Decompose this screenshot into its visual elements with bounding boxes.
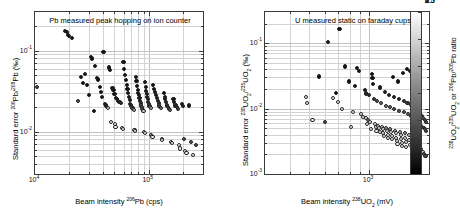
- axis-tick-y: [201, 69, 203, 70]
- data-point: [122, 67, 126, 71]
- data-point: [424, 129, 428, 133]
- axis-tick-y: [201, 139, 203, 140]
- axis-tick-x: [89, 172, 90, 174]
- axis-tick-y: [35, 54, 37, 55]
- axis-tick-x: [309, 172, 310, 174]
- axis-tick-y: [201, 54, 203, 55]
- gridline-horizontal: [35, 26, 203, 27]
- data-point: [189, 140, 193, 144]
- data-point: [187, 103, 191, 107]
- axis-tick-y: [265, 43, 269, 44]
- axis-tick-y: [265, 89, 267, 90]
- axis-tick-x: [290, 12, 291, 14]
- axis-tick-x: [89, 12, 90, 14]
- data-point: [113, 125, 117, 129]
- data-point: [396, 79, 400, 83]
- panel-title-u: U measured static on faraday cups: [295, 16, 411, 25]
- axis-tick-x: [290, 172, 291, 174]
- axis-tick-y: [265, 24, 267, 25]
- data-point: [191, 153, 195, 157]
- axis-tick-y: [35, 135, 37, 136]
- axis-tick-y: [35, 26, 37, 27]
- gridline-horizontal: [265, 119, 429, 120]
- axis-tick-y: [201, 63, 203, 64]
- axis-tick-x: [325, 172, 326, 174]
- axis-tick-y: [201, 150, 203, 151]
- data-point: [141, 109, 145, 113]
- axis-tick-y: [265, 112, 267, 113]
- data-point: [184, 151, 188, 155]
- axis-tick-y: [35, 51, 39, 52]
- gridline-horizontal: [35, 51, 203, 52]
- data-point: [347, 79, 351, 83]
- axis-tick-y: [265, 46, 267, 47]
- xaxis-title-u: Beam intensity 238UO2 (mV): [301, 198, 393, 206]
- axis-tick-y: [265, 119, 267, 120]
- data-point: [370, 72, 374, 76]
- gridline-horizontal: [265, 89, 429, 90]
- data-point: [397, 97, 401, 101]
- gridline-horizontal: [35, 58, 203, 59]
- data-point: [326, 40, 330, 44]
- axis-tick-x: [138, 172, 139, 174]
- data-point: [387, 93, 391, 97]
- data-point: [357, 69, 361, 73]
- axis-tick-x: [183, 12, 184, 14]
- axis-tick-y: [201, 135, 203, 136]
- gridline-horizontal: [35, 135, 203, 136]
- xaxis-title-pb: Beam intensity 206Pb (cps): [75, 198, 163, 206]
- gridline-vertical: [290, 12, 291, 174]
- axis-tick-y: [427, 143, 429, 144]
- data-point: [310, 118, 314, 122]
- axis-tick-y: [265, 154, 267, 155]
- xtick-label: 104: [29, 176, 40, 183]
- axis-tick-y: [201, 75, 203, 76]
- data-point: [83, 72, 87, 76]
- data-point: [121, 127, 125, 131]
- data-point: [134, 79, 138, 83]
- data-point: [92, 109, 96, 113]
- data-point: [401, 71, 405, 75]
- axis-tick-x: [325, 12, 326, 14]
- axis-tick-y: [201, 156, 203, 157]
- axis-tick-y: [427, 58, 429, 59]
- axis-tick-y: [427, 69, 429, 70]
- panel-pb: Pb measured peak hopping on ion counter …: [0, 0, 228, 219]
- axis-tick-x: [338, 12, 339, 14]
- axis-tick-x: [124, 12, 125, 14]
- axis-tick-y: [201, 164, 203, 165]
- gridline-horizontal: [265, 123, 429, 124]
- gridline-horizontal: [35, 63, 203, 64]
- axis-tick-y: [35, 144, 37, 145]
- data-point: [70, 36, 74, 40]
- data-point: [35, 85, 39, 89]
- data-point: [395, 142, 399, 146]
- axis-tick-y: [35, 132, 39, 133]
- axis-tick-y: [425, 109, 429, 110]
- axis-tick-x: [144, 12, 145, 14]
- data-point: [99, 90, 103, 94]
- data-point: [371, 82, 375, 86]
- yaxis-title-pb: Standard error 206Pb/208Pb (‰): [12, 58, 20, 160]
- data-point: [124, 78, 128, 82]
- data-point: [351, 110, 355, 114]
- axis-tick-y: [427, 24, 429, 25]
- data-point: [168, 108, 172, 112]
- axis-tick-x: [138, 12, 139, 14]
- gridline-horizontal: [35, 54, 203, 55]
- axis-tick-y: [427, 50, 429, 51]
- data-point: [108, 68, 112, 72]
- axis-tick-y: [265, 128, 267, 129]
- panel-title-pb: Pb measured peak hopping on ion counter: [49, 16, 190, 25]
- axis-tick-y: [427, 77, 429, 78]
- data-point: [336, 100, 340, 104]
- axis-tick-x: [103, 12, 104, 14]
- axis-tick-y: [199, 51, 203, 52]
- data-point: [159, 106, 163, 110]
- axis-tick-y: [427, 135, 429, 136]
- axis-tick-y: [265, 123, 267, 124]
- axis-tick-y: [265, 63, 267, 64]
- gridline-horizontal: [265, 58, 429, 59]
- data-point: [304, 95, 308, 99]
- colorbar-tick: [418, 66, 421, 67]
